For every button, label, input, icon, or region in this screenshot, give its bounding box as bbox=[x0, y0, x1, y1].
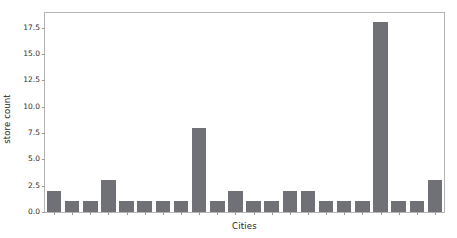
bar bbox=[174, 201, 189, 212]
x-tick-mark bbox=[308, 212, 309, 215]
bar bbox=[337, 201, 352, 212]
x-tick-mark bbox=[90, 212, 91, 215]
y-tick-mark bbox=[42, 80, 45, 81]
y-tick-mark bbox=[42, 212, 45, 213]
y-tick-mark bbox=[42, 107, 45, 108]
x-tick-mark bbox=[399, 212, 400, 215]
bar bbox=[65, 201, 80, 212]
bar bbox=[410, 201, 425, 212]
bar bbox=[47, 191, 62, 212]
bar bbox=[283, 191, 298, 212]
x-tick-mark bbox=[326, 212, 327, 215]
x-tick-mark bbox=[163, 212, 164, 215]
x-tick-mark bbox=[181, 212, 182, 215]
x-tick-mark bbox=[72, 212, 73, 215]
bar bbox=[137, 201, 152, 212]
bar bbox=[192, 128, 207, 212]
bar bbox=[156, 201, 171, 212]
y-tick-mark bbox=[42, 133, 45, 134]
bar bbox=[119, 201, 134, 212]
y-axis-label: store count bbox=[0, 0, 14, 238]
x-tick-mark bbox=[272, 212, 273, 215]
x-tick-mark bbox=[362, 212, 363, 215]
x-tick-mark bbox=[54, 212, 55, 215]
bar bbox=[355, 201, 370, 212]
x-tick-mark bbox=[127, 212, 128, 215]
bar bbox=[319, 201, 334, 212]
y-tick-mark bbox=[42, 28, 45, 29]
x-axis-label: Cities bbox=[44, 221, 445, 231]
x-tick-mark bbox=[290, 212, 291, 215]
y-tick-mark bbox=[42, 54, 45, 55]
bar bbox=[391, 201, 406, 212]
bar bbox=[210, 201, 225, 212]
x-tick-mark bbox=[145, 212, 146, 215]
x-tick-mark bbox=[217, 212, 218, 215]
bar bbox=[264, 201, 279, 212]
y-tick-mark bbox=[42, 159, 45, 160]
bar bbox=[228, 191, 243, 212]
bar bbox=[301, 191, 316, 212]
bar bbox=[428, 180, 443, 212]
x-tick-mark bbox=[254, 212, 255, 215]
x-tick-mark bbox=[235, 212, 236, 215]
bar bbox=[83, 201, 98, 212]
y-tick-mark bbox=[42, 186, 45, 187]
x-tick-mark bbox=[344, 212, 345, 215]
bar bbox=[373, 22, 388, 212]
x-tick-mark bbox=[199, 212, 200, 215]
x-tick-mark bbox=[108, 212, 109, 215]
x-tick-mark bbox=[435, 212, 436, 215]
bar-chart-figure: store count 0.02.55.07.510.012.515.017.5… bbox=[0, 0, 457, 238]
plot-axes: 0.02.55.07.510.012.515.017.5 bbox=[44, 12, 445, 213]
bar bbox=[246, 201, 261, 212]
plot-area bbox=[45, 13, 444, 212]
x-tick-mark bbox=[381, 212, 382, 215]
x-tick-mark bbox=[417, 212, 418, 215]
bar bbox=[101, 180, 116, 212]
